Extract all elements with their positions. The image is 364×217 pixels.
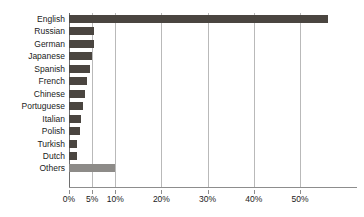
category-label-portuguese: Portuguese (0, 100, 65, 112)
category-label-japanese: Japanese (0, 50, 65, 62)
bar-rows (69, 13, 357, 187)
category-label-turkish: Turkish (0, 138, 65, 150)
bar-row (69, 138, 357, 150)
category-label-polish: Polish (0, 125, 65, 137)
x-tick-label-40pct: 40% (245, 194, 262, 204)
bar-row (69, 100, 357, 112)
x-tick-label-10pct: 10% (107, 194, 124, 204)
plot-area (69, 13, 357, 187)
category-label-italian: Italian (0, 113, 65, 125)
bar-english (69, 15, 328, 23)
category-label-others: Others (0, 162, 65, 174)
category-label-dutch: Dutch (0, 150, 65, 162)
category-label-german: German (0, 38, 65, 50)
bar-spanish (69, 65, 90, 73)
x-tick-label-0pct: 0% (63, 194, 75, 204)
bar-polish (69, 127, 80, 135)
category-label-english: English (0, 13, 65, 25)
bar-russian (69, 27, 94, 35)
x-tick-label-50pct: 50% (291, 194, 308, 204)
x-tick-label-20pct: 20% (153, 194, 170, 204)
category-label-spanish: Spanish (0, 63, 65, 75)
bar-row (69, 13, 357, 25)
bar-row (69, 162, 357, 174)
bar-row (69, 125, 357, 137)
bar-row (69, 150, 357, 162)
category-axis-labels: EnglishRussianGermanJapaneseSpanishFrenc… (0, 13, 65, 187)
bar-chinese (69, 90, 85, 98)
category-label-russian: Russian (0, 25, 65, 37)
bar-row (69, 25, 357, 37)
bar-others (69, 164, 115, 172)
bar-row (69, 88, 357, 100)
bar-dutch (69, 152, 77, 160)
category-label-french: French (0, 75, 65, 87)
bar-german (69, 40, 94, 48)
category-label-chinese: Chinese (0, 88, 65, 100)
bar-italian (69, 115, 81, 123)
x-axis-line (69, 187, 357, 188)
bar-row (69, 63, 357, 75)
x-tick-label-5pct: 5% (86, 194, 98, 204)
x-tick-label-30pct: 30% (199, 194, 216, 204)
bar-row (69, 75, 357, 87)
bar-chart: EnglishRussianGermanJapaneseSpanishFrenc… (0, 0, 364, 217)
bar-japanese (69, 52, 92, 60)
bar-portuguese (69, 102, 83, 110)
bar-row (69, 38, 357, 50)
bar-row (69, 113, 357, 125)
bar-french (69, 77, 87, 85)
bar-turkish (69, 140, 77, 148)
bar-row (69, 50, 357, 62)
